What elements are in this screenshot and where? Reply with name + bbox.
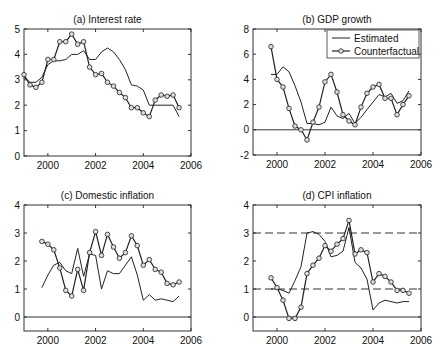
y-tick-label: 4 [243,74,249,85]
y-tick-label: 6 [243,49,249,60]
counterfactual-marker [311,120,316,125]
counterfactual-marker [341,112,346,117]
counterfactual-marker [105,232,110,237]
counterfactual-marker [299,305,304,310]
counterfactual-marker [395,288,400,293]
counterfactual-marker [165,94,170,99]
counterfactual-marker [81,288,86,293]
counterfactual-marker [75,267,80,272]
x-tick-label: 2002 [84,335,107,346]
counterfactual-marker [269,276,274,281]
counterfactual-marker [117,90,122,95]
axes-box [24,205,191,331]
y-tick-label: 1 [14,125,20,136]
y-tick-label: 0 [243,124,249,135]
counterfactual-marker [323,243,328,248]
counterfactual-marker [305,138,310,143]
counterfactual-marker [159,93,164,98]
x-tick-label: 2002 [314,159,337,170]
estimated-series [42,248,179,301]
y-tick-label: 0 [14,151,20,162]
counterfactual-marker [347,218,352,223]
x-tick-label: 2000 [266,159,289,170]
legend: Estimated Counterfactual [327,30,419,58]
counterfactual-marker [377,82,382,87]
counterfactual-marker [52,248,57,253]
counterfactual-marker [141,111,146,116]
counterfactual-marker [28,83,33,88]
counterfactual-marker [69,294,74,299]
counterfactual-marker [275,285,280,290]
counterfactual-marker [287,316,292,321]
counterfactual-marker [153,98,158,103]
counterfactual-marker [377,271,382,276]
x-tick-label: 2000 [37,160,60,171]
counterfactual-marker [383,96,388,101]
panel-title: (c) Domestic inflation [61,190,154,201]
counterfactual-series [271,47,409,140]
y-tick-label: 4 [243,200,249,211]
counterfactual-marker [46,57,51,62]
counterfactual-marker [341,236,346,241]
figure-canvas: (a) Interest rate2000200220042006012345(… [0,0,445,356]
counterfactual-marker [353,252,358,257]
counterfactual-marker [99,71,104,76]
counterfactual-marker [40,239,45,244]
counterfactual-marker [171,93,176,98]
counterfactual-marker [135,105,140,110]
x-tick-label: 2006 [410,335,433,346]
counterfactual-marker [389,96,394,101]
counterfactual-marker [99,253,104,258]
counterfactual-marker [52,57,57,62]
counterfactual-series [271,220,409,318]
panel-c: (c) Domestic inflation200020022004200601… [14,190,202,346]
x-tick-label: 2006 [180,160,203,171]
counterfactual-marker [159,270,164,275]
counterfactual-marker [281,298,286,303]
counterfactual-marker [395,112,400,117]
y-tick-label: 4 [14,49,20,60]
counterfactual-marker [353,123,358,128]
counterfactual-marker [93,72,98,77]
counterfactual-marker [365,91,370,96]
y-tick-label: 5 [14,24,20,35]
counterfactual-marker [153,267,158,272]
estimated-series [271,227,409,310]
x-tick-label: 2006 [410,159,433,170]
counterfactual-marker [335,90,340,95]
x-tick-label: 2004 [132,160,155,171]
counterfactual-marker [401,102,406,107]
panel-d: (d) CPI inflation200020022004200601234 [243,190,432,346]
panels-root: (a) Interest rate2000200220042006012345(… [14,14,432,346]
y-tick-label: 4 [14,200,20,211]
counterfactual-marker [323,80,328,85]
x-tick-label: 2002 [84,160,107,171]
counterfactual-marker [117,256,122,261]
counterfactual-marker [129,234,134,239]
counterfactual-marker [147,257,152,262]
counterfactual-marker [135,243,140,248]
counterfactual-marker [171,283,176,288]
counterfactual-marker [22,72,27,77]
counterfactual-marker [111,84,116,89]
legend-counterfactual-marker-icon [339,49,344,54]
y-tick-label: 1 [243,284,249,295]
panel-title: (b) GDP growth [302,14,371,25]
counterfactual-marker [111,245,116,250]
y-tick-label: 2 [243,99,249,110]
panel-title: (d) CPI inflation [303,190,372,201]
counterfactual-marker [69,32,74,37]
counterfactual-marker [407,291,412,296]
panel-a: (a) Interest rate2000200220042006012345 [14,14,202,171]
panel-title: (a) Interest rate [73,14,142,25]
y-tick-label: 0 [14,312,20,323]
counterfactual-marker [93,229,98,234]
counterfactual-marker [335,242,340,247]
x-tick-label: 2000 [37,335,60,346]
counterfactual-marker [123,250,128,255]
counterfactual-marker [371,280,376,285]
counterfactual-marker [58,266,63,271]
y-tick-label: -2 [240,150,249,161]
counterfactual-marker [269,44,274,49]
counterfactual-marker [371,85,376,90]
